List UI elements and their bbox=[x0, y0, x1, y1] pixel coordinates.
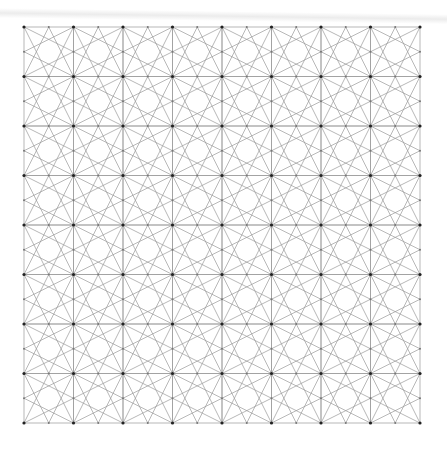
edge-midpoint-node bbox=[23, 348, 25, 350]
grid-node bbox=[319, 273, 322, 276]
edge-midpoint-node bbox=[246, 175, 248, 177]
grid-node bbox=[369, 174, 372, 177]
grid-node bbox=[72, 421, 75, 424]
grid-node bbox=[72, 75, 75, 78]
edge-midpoint-node bbox=[196, 175, 198, 177]
grid-node bbox=[418, 223, 421, 226]
edge-midpoint-node bbox=[370, 397, 372, 399]
edge-midpoint-node bbox=[295, 125, 297, 127]
edge-midpoint-node bbox=[172, 249, 174, 251]
grid-node bbox=[22, 174, 25, 177]
grid-node bbox=[72, 223, 75, 226]
edge-midpoint-node bbox=[48, 373, 50, 375]
edge-midpoint-node bbox=[394, 323, 396, 325]
edge-midpoint-node bbox=[246, 224, 248, 226]
grid-node bbox=[220, 25, 223, 28]
grid-node bbox=[72, 273, 75, 276]
grid-node bbox=[270, 25, 273, 28]
grid-node bbox=[171, 174, 174, 177]
edge-midpoint-node bbox=[221, 397, 223, 399]
grid-node bbox=[369, 25, 372, 28]
edge-midpoint-node bbox=[73, 199, 75, 201]
edge-midpoint-node bbox=[320, 348, 322, 350]
grid-node bbox=[121, 124, 124, 127]
edge-midpoint-node bbox=[271, 249, 273, 251]
edge-midpoint-node bbox=[196, 125, 198, 127]
edge-midpoint-node bbox=[271, 298, 273, 300]
grid-node bbox=[72, 322, 75, 325]
edge-midpoint-node bbox=[246, 373, 248, 375]
edge-midpoint-node bbox=[23, 249, 25, 251]
edge-midpoint-node bbox=[147, 224, 149, 226]
edge-midpoint-node bbox=[196, 274, 198, 276]
edge-midpoint-node bbox=[320, 150, 322, 152]
grid-node bbox=[369, 75, 372, 78]
edge-midpoint-node bbox=[97, 224, 99, 226]
edge-midpoint-node bbox=[295, 422, 297, 424]
grid-node bbox=[220, 75, 223, 78]
grid-node bbox=[319, 25, 322, 28]
edge-midpoint-node bbox=[271, 100, 273, 102]
grid-node bbox=[121, 322, 124, 325]
edge-midpoint-node bbox=[221, 51, 223, 53]
grid-node bbox=[72, 372, 75, 375]
grid-node bbox=[121, 421, 124, 424]
grid-node bbox=[22, 273, 25, 276]
grid-node bbox=[369, 273, 372, 276]
edge-midpoint-node bbox=[122, 348, 124, 350]
grid-node bbox=[319, 322, 322, 325]
grid-node bbox=[418, 322, 421, 325]
edge-midpoint-node bbox=[172, 397, 174, 399]
edge-midpoint-node bbox=[221, 348, 223, 350]
edge-midpoint-node bbox=[271, 199, 273, 201]
edge-midpoint-node bbox=[147, 323, 149, 325]
grid-node bbox=[72, 174, 75, 177]
edge-midpoint-node bbox=[271, 150, 273, 152]
edge-midpoint-node bbox=[295, 323, 297, 325]
grid-node bbox=[220, 223, 223, 226]
edge-midpoint-node bbox=[295, 373, 297, 375]
edge-midpoint-node bbox=[246, 125, 248, 127]
grid-node bbox=[270, 124, 273, 127]
edge-midpoint-node bbox=[73, 348, 75, 350]
grid-node bbox=[171, 75, 174, 78]
edge-midpoint-node bbox=[73, 397, 75, 399]
edge-midpoint-node bbox=[394, 125, 396, 127]
edge-midpoint-node bbox=[295, 76, 297, 78]
edge-midpoint-node bbox=[295, 224, 297, 226]
grid-node bbox=[22, 75, 25, 78]
edge-midpoint-node bbox=[196, 373, 198, 375]
grid-node bbox=[418, 25, 421, 28]
edge-midpoint-node bbox=[320, 51, 322, 53]
edge-midpoint-node bbox=[370, 199, 372, 201]
edge-midpoint-node bbox=[122, 249, 124, 251]
edge-midpoint-node bbox=[271, 51, 273, 53]
grid-node bbox=[418, 124, 421, 127]
edge-midpoint-node bbox=[97, 175, 99, 177]
edge-midpoint-node bbox=[394, 175, 396, 177]
edge-midpoint-node bbox=[23, 51, 25, 53]
edge-midpoint-node bbox=[97, 274, 99, 276]
edge-midpoint-node bbox=[394, 26, 396, 28]
grid-node bbox=[418, 75, 421, 78]
edge-midpoint-node bbox=[394, 224, 396, 226]
grid-node bbox=[369, 223, 372, 226]
edge-midpoint-node bbox=[48, 422, 50, 424]
edge-midpoint-node bbox=[221, 298, 223, 300]
grid-node bbox=[121, 372, 124, 375]
edge-midpoint-node bbox=[196, 76, 198, 78]
edge-midpoint-node bbox=[48, 76, 50, 78]
grid-node bbox=[319, 223, 322, 226]
grid-node bbox=[369, 124, 372, 127]
edge-midpoint-node bbox=[320, 298, 322, 300]
grid-node bbox=[220, 273, 223, 276]
edge-midpoint-node bbox=[419, 249, 421, 251]
edge-midpoint-node bbox=[419, 199, 421, 201]
edge-midpoint-node bbox=[246, 274, 248, 276]
grid-node bbox=[220, 372, 223, 375]
edge-midpoint-node bbox=[370, 51, 372, 53]
grid-node bbox=[369, 421, 372, 424]
edge-midpoint-node bbox=[147, 26, 149, 28]
grid-node bbox=[171, 421, 174, 424]
edge-midpoint-node bbox=[73, 51, 75, 53]
